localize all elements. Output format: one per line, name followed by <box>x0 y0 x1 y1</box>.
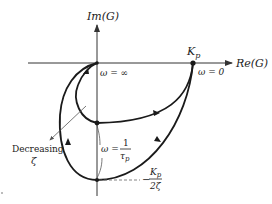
svg-text:1: 1 <box>123 138 129 148</box>
omega-infinity-label: ω = ∞ <box>100 68 128 78</box>
min-imag-label: − Kp 2ζ <box>142 167 162 191</box>
omega-tau-label: ω = 1 τp <box>101 138 131 163</box>
imag-axis-label: Im(G) <box>86 10 119 23</box>
svg-text:2ζ: 2ζ <box>149 181 162 191</box>
decreasing-zeta-arrow <box>50 106 86 140</box>
origin-point <box>95 61 99 65</box>
omega-zero-label: ω = 0 <box>198 67 225 77</box>
min-imag-point <box>95 178 99 182</box>
zeta-symbol: ζ <box>31 155 37 166</box>
decreasing-zeta-label: Decreasing <box>12 144 64 154</box>
svg-text:Kp: Kp <box>149 167 162 179</box>
svg-text:τp: τp <box>120 151 130 163</box>
nyquist-curve-inner <box>76 63 193 123</box>
real-axis-label: Re(G) <box>235 57 268 70</box>
direction-arrow-icon <box>65 138 71 145</box>
omega-tau-pointer <box>97 158 102 178</box>
kp-point <box>190 60 195 65</box>
nyquist-diagram: Im(G) Re(G) Kp ω = 0 ω = ∞ ω = 1 τp − Kp <box>0 0 272 204</box>
direction-arrow-icon <box>154 136 161 142</box>
kp-label: Kp <box>186 45 200 60</box>
svg-text:ω =: ω = <box>101 144 119 154</box>
omega-tau-point <box>95 121 100 126</box>
stray-mark <box>1 192 3 194</box>
